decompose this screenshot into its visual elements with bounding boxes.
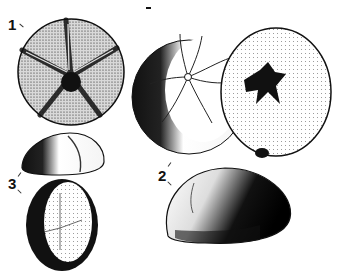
specimen-2-oral: [221, 28, 331, 158]
specimen-1-aboral: [18, 19, 124, 125]
scale-mark: [146, 7, 151, 9]
figure-label-2: 2: [158, 168, 166, 183]
specimen-3-aboral: [26, 179, 98, 271]
specimen-3-lateral: [22, 133, 104, 175]
echinoid-plate: [0, 0, 337, 278]
figure-label-1: 1: [8, 17, 16, 32]
figure-label-3: 3: [8, 176, 16, 191]
specimen-2-lateral: [167, 168, 291, 243]
